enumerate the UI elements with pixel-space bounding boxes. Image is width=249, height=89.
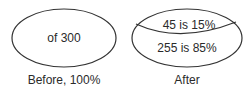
after-bottom-segment-text: 255 is 85% [157, 41, 216, 55]
before-inside-text: of 300 [47, 31, 80, 45]
after-caption: After [174, 73, 199, 87]
before-caption: Before, 100% [28, 73, 101, 87]
after-top-segment-text: 45 is 15% [163, 18, 216, 32]
